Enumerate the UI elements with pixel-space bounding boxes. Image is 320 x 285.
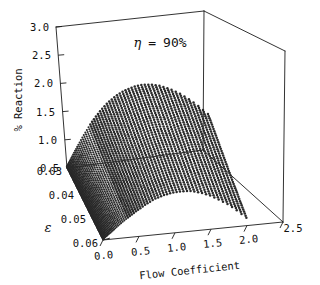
data-point xyxy=(83,153,85,155)
data-point xyxy=(149,108,152,111)
data-point xyxy=(140,151,143,154)
data-point xyxy=(149,127,152,130)
data-point xyxy=(191,136,194,139)
data-point xyxy=(143,111,146,114)
data-point xyxy=(201,182,204,185)
data-point xyxy=(92,169,94,171)
data-point xyxy=(154,160,157,163)
data-point xyxy=(102,176,104,178)
data-point xyxy=(112,205,114,207)
data-point xyxy=(122,101,125,104)
data-point xyxy=(213,139,216,142)
data-point xyxy=(137,161,140,164)
data-point xyxy=(178,110,181,113)
data-point xyxy=(192,119,195,122)
data-point xyxy=(214,179,217,182)
data-point xyxy=(141,107,144,110)
data-point xyxy=(200,130,203,133)
data-point xyxy=(201,172,204,175)
data-point xyxy=(223,177,226,180)
data-point xyxy=(168,132,171,135)
data-point xyxy=(147,160,150,163)
data-point xyxy=(215,155,218,158)
data-point xyxy=(220,168,223,171)
data-point xyxy=(229,192,232,195)
data-point xyxy=(78,149,80,151)
data-point xyxy=(148,105,151,108)
data-point xyxy=(213,130,216,133)
data-point xyxy=(212,156,215,159)
data-point xyxy=(196,150,199,153)
data-point xyxy=(130,96,133,99)
data-point xyxy=(94,142,96,144)
data-point xyxy=(157,196,160,199)
data-point xyxy=(159,173,162,176)
data-point xyxy=(174,147,177,150)
data-point xyxy=(192,108,195,111)
data-point xyxy=(95,174,97,176)
data-point xyxy=(219,145,222,148)
data-point xyxy=(109,192,111,194)
data-point xyxy=(204,134,207,137)
data-point xyxy=(183,181,186,184)
x-tick-label: 0.0 xyxy=(94,248,114,262)
data-point xyxy=(215,143,218,146)
data-point xyxy=(139,100,142,103)
data-point xyxy=(108,194,110,196)
data-point xyxy=(142,137,145,140)
data-point xyxy=(186,181,189,184)
data-point xyxy=(231,178,234,181)
data-point xyxy=(154,140,157,143)
data-point xyxy=(177,186,180,189)
data-point xyxy=(185,177,188,180)
data-point xyxy=(163,116,166,119)
data-point xyxy=(168,150,171,153)
data-point xyxy=(143,149,146,152)
data-point xyxy=(175,150,178,153)
data-point xyxy=(85,162,87,164)
data-point xyxy=(89,137,91,139)
data-point xyxy=(171,139,174,142)
data-point xyxy=(196,122,199,125)
data-point xyxy=(75,152,77,154)
data-point xyxy=(108,177,110,179)
data-point xyxy=(138,126,141,129)
data-point xyxy=(162,125,165,128)
data-point xyxy=(166,125,169,128)
data-point xyxy=(181,119,184,122)
data-point xyxy=(184,125,187,128)
data-point xyxy=(168,190,171,193)
data-point xyxy=(144,94,147,97)
data-point xyxy=(167,178,170,181)
data-point xyxy=(166,96,169,99)
data-point xyxy=(139,120,142,123)
data-point xyxy=(158,103,161,106)
data-point xyxy=(158,92,161,95)
data-point xyxy=(164,189,167,192)
data-point xyxy=(135,136,138,139)
data-point xyxy=(180,144,183,147)
data-point xyxy=(124,107,127,110)
data-point xyxy=(166,164,169,167)
data-point xyxy=(88,141,90,143)
data-point xyxy=(120,207,122,209)
data-point xyxy=(179,103,182,106)
data-point xyxy=(206,148,209,151)
data-point xyxy=(138,136,141,139)
data-point xyxy=(155,96,158,99)
data-point xyxy=(153,176,156,179)
data-point xyxy=(159,125,162,128)
data-point xyxy=(157,149,160,152)
data-point xyxy=(138,163,141,166)
data-point xyxy=(211,144,214,147)
data-point xyxy=(183,133,186,136)
data-point xyxy=(139,139,142,142)
data-point xyxy=(141,153,144,156)
data-point xyxy=(112,111,115,114)
data-point xyxy=(179,122,182,125)
data-point xyxy=(144,113,147,116)
data-point xyxy=(181,117,184,120)
data-point xyxy=(164,141,167,144)
data-point xyxy=(91,143,93,145)
data-point xyxy=(139,207,142,210)
